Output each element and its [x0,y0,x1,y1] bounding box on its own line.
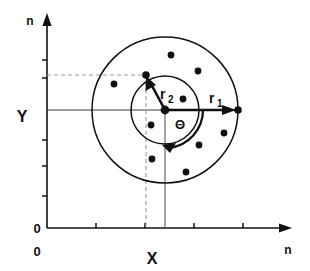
r1-label-base: r [209,90,215,106]
data-point [149,156,156,163]
polar-neighborhood-diagram: Y n 0 X n 0 r 2 r 1 Θ [0,0,310,271]
y-axis-label: Y [17,108,28,125]
data-point [111,81,118,88]
r1-label: r 1 [209,90,223,109]
data-point [168,52,175,59]
r1-label-subscript: 1 [217,98,223,109]
axes-group [42,13,292,233]
data-point [221,130,228,137]
theta-label: Θ [175,117,185,132]
x-axis-arrowhead [279,223,292,232]
diagram-canvas: Y n 0 X n 0 r 2 r 1 Θ [0,0,310,271]
r2-label-subscript: 2 [168,94,174,105]
r1-vector-arrowhead [222,105,236,115]
r1-endpoint [234,106,242,114]
x-axis-label: X [147,250,158,267]
data-point [183,169,190,176]
x-axis-origin-label: 0 [33,244,40,259]
y-axis-origin-label: 0 [33,221,40,236]
y-axis-unit-label: n [26,14,33,28]
data-point [180,96,187,103]
data-point [196,142,203,149]
data-point [148,122,155,129]
center-point [161,106,170,115]
labels-group: Y n 0 X n 0 r 2 r 1 Θ [17,14,292,267]
r2-label-base: r [160,86,166,102]
y-axis-arrowhead [42,13,51,26]
r2-endpoint [142,71,150,79]
data-point [195,68,202,75]
x-axis-unit-label: n [284,243,291,257]
